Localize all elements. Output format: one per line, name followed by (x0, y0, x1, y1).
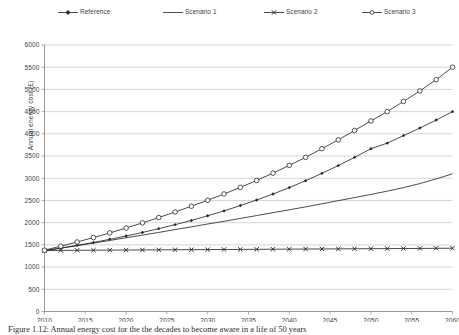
series-scenario-1 (45, 174, 453, 251)
data-point-marker (190, 219, 193, 222)
y-tick-label: 6000 (24, 41, 39, 48)
data-point-marker (401, 99, 406, 104)
data-point-marker (385, 109, 390, 114)
series-line (45, 248, 453, 250)
x-tick-label: 2020 (119, 317, 134, 322)
data-point-marker (369, 147, 372, 150)
data-point-marker (91, 235, 96, 240)
data-point-marker (402, 134, 405, 137)
data-point-marker (337, 164, 340, 167)
x-tick-label: 2025 (159, 317, 174, 322)
y-tick-label: 4500 (24, 108, 39, 115)
data-point-marker (238, 185, 243, 190)
data-point-marker (434, 118, 437, 121)
x-tick-label: 2010 (37, 317, 52, 322)
figure-caption: Figure 1.12: Annual energy cost for the … (8, 324, 459, 335)
data-point-marker (156, 215, 161, 220)
data-point-marker (271, 171, 276, 176)
y-tick-label: 0 (36, 308, 40, 315)
x-tick-label: 2050 (363, 317, 378, 322)
series-scenario-3 (42, 65, 455, 253)
data-point-marker (239, 204, 242, 207)
data-point-marker (287, 163, 292, 168)
y-tick-label: 1000 (24, 263, 39, 270)
series-scenario-2 (42, 246, 454, 253)
y-tick-label: 3500 (24, 152, 39, 159)
data-point-marker (369, 119, 374, 124)
data-point-marker (386, 141, 389, 144)
y-tick-label: 500 (28, 286, 40, 293)
data-point-marker (320, 146, 325, 151)
data-point-marker (288, 186, 291, 189)
data-point-marker (189, 204, 194, 209)
data-point-marker (173, 223, 176, 226)
data-point-marker (254, 178, 259, 183)
data-point-marker (222, 192, 227, 197)
chart-plot-area: 0500100015002000250030003500400045005000… (0, 0, 459, 322)
y-tick-label: 4000 (24, 130, 39, 137)
series-line (45, 174, 453, 251)
data-point-marker (434, 77, 439, 82)
x-tick-label: 2040 (282, 317, 297, 322)
series-line (45, 112, 453, 251)
y-tick-label: 3000 (24, 175, 39, 182)
data-point-marker (271, 192, 274, 195)
data-point-marker (304, 179, 307, 182)
x-tick-label: 2045 (323, 317, 338, 322)
data-point-marker (418, 126, 421, 129)
data-point-marker (336, 138, 341, 143)
x-tick-label: 2060 (445, 317, 459, 322)
data-point-marker (303, 155, 308, 160)
data-point-marker (222, 209, 225, 212)
data-point-marker (42, 248, 47, 253)
data-point-marker (140, 221, 145, 226)
data-point-marker (320, 172, 323, 175)
data-point-marker (450, 65, 455, 70)
y-tick-label: 5500 (24, 64, 39, 71)
y-tick-label: 2500 (24, 197, 39, 204)
series-reference (43, 110, 454, 252)
y-tick-label: 2000 (24, 219, 39, 226)
data-point-marker (157, 227, 160, 230)
x-tick-label: 2015 (78, 317, 93, 322)
data-point-marker (75, 240, 80, 245)
data-point-marker (451, 110, 454, 113)
x-tick-label: 2055 (404, 317, 419, 322)
data-point-marker (205, 198, 210, 203)
data-point-marker (59, 244, 64, 249)
x-tick-label: 2030 (200, 317, 215, 322)
data-point-marker (124, 226, 129, 231)
y-tick-label: 5000 (24, 86, 39, 93)
x-tick-label: 2035 (241, 317, 256, 322)
x-ticks: 2010201520202025203020352040204520502055… (37, 312, 459, 323)
data-point-marker (173, 210, 178, 215)
data-point-marker (206, 214, 209, 217)
data-point-marker (255, 198, 258, 201)
chart-figure: Reference Scenario 1 Scenario 2 (0, 0, 459, 335)
data-point-marker (107, 231, 112, 236)
y-tick-label: 1500 (24, 241, 39, 248)
data-point-marker (352, 128, 357, 133)
y-gridlines: 0500100015002000250030003500400045005000… (24, 41, 452, 315)
data-point-marker (418, 89, 423, 94)
data-point-marker (141, 231, 144, 234)
